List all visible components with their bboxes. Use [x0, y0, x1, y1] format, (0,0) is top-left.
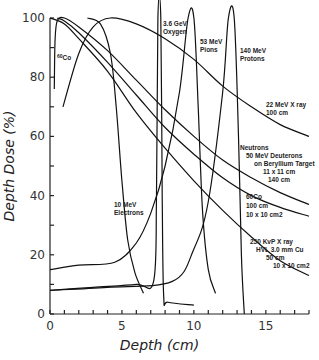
y-tick-label: 80	[30, 70, 45, 84]
y-tick-label: 100	[22, 11, 45, 25]
x-tick-label: 15	[258, 319, 273, 333]
curve-10-mev-electrons	[87, 18, 143, 293]
axes: 051015020406080100Depth (cm)Depth Dose (…	[1, 11, 309, 353]
curve-60co-100-cm-10-x-10-cm2	[57, 18, 309, 216]
annotation-250kvp: 250 KvP X rayHVL 3.0 mm Cu50 cm10 x 10 c…	[250, 238, 310, 269]
x-tick-label: 0	[46, 319, 54, 333]
curve-3-6-gev-oxygen	[50, 0, 194, 306]
curve-250-kvp-x-ray-hvl-3-0-mm-cu-50-cm-10-x-10-cm2	[50, 18, 309, 276]
y-tick-label: 0	[37, 307, 45, 321]
annotation-co60: 60Co100 cm10 x 10 cm2	[246, 193, 283, 218]
annotation-pions: 53 MeVPions	[200, 38, 223, 53]
annotation-electrons: 10 MeVElectrons	[114, 201, 144, 216]
x-tick-label: 5	[118, 319, 126, 333]
annotation-protons: 140 MeVProtons	[240, 47, 267, 62]
annotation-oxygen: 3.6 GeVOxygen	[163, 20, 188, 36]
annotation-co60-short: 60Co	[57, 53, 71, 61]
y-tick-label: 40	[30, 189, 45, 203]
x-tick-label: 10	[186, 319, 201, 333]
curve-53-mev-pions	[50, 8, 216, 293]
y-axis-label: Depth Dose (%)	[1, 110, 17, 221]
y-tick-label: 60	[30, 129, 45, 143]
y-tick-label: 20	[30, 248, 45, 262]
x-axis-label: Depth (cm)	[120, 337, 199, 353]
depth-dose-chart: 051015020406080100Depth (cm)Depth Dose (…	[0, 0, 319, 360]
annotation-22mev: 22 MeV X ray100 cm	[266, 101, 306, 116]
